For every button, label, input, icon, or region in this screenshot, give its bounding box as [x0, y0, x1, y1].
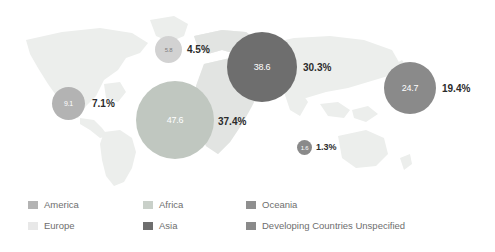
legend-swatch-america-icon	[28, 201, 38, 209]
bubble-percent-europe: 4.5%	[187, 45, 210, 55]
legend-label-europe: Europe	[44, 221, 75, 231]
bubble-value-developing-countries-unspecified: 24.7	[402, 84, 419, 93]
legend-column-2: Africa Asia	[143, 196, 183, 238]
legend-item-oceania[interactable]: Oceania	[246, 196, 405, 213]
legend-label-africa: Africa	[159, 200, 183, 210]
bubble-value-africa: 47.6	[167, 116, 184, 125]
bubble-percent-oceania: 1.3%	[316, 143, 337, 152]
legend-item-developing-countries-unspecified[interactable]: Developing Countries Unspecified	[246, 217, 405, 234]
bubble-percent-asia: 30.3%	[303, 63, 331, 73]
legend-item-america[interactable]: America	[28, 196, 79, 213]
bubble-europe[interactable]: 5.8	[155, 36, 182, 63]
legend-item-europe[interactable]: Europe	[28, 217, 79, 234]
legend-label-developing-countries-unspecified: Developing Countries Unspecified	[262, 221, 405, 231]
bubble-africa[interactable]: 47.6	[136, 81, 214, 159]
legend-item-asia[interactable]: Asia	[143, 217, 183, 234]
legend-column-3: Oceania Developing Countries Unspecified	[246, 196, 405, 238]
legend-swatch-europe-icon	[28, 222, 38, 230]
bubble-percent-developing-countries-unspecified: 19.4%	[442, 84, 470, 94]
bubble-developing-countries-unspecified[interactable]: 24.7	[384, 62, 436, 114]
bubble-percent-america: 7.1%	[92, 99, 115, 109]
legend: America Europe Africa Asia Oceania	[0, 196, 495, 252]
legend-item-africa[interactable]: Africa	[143, 196, 183, 213]
legend-swatch-developing-countries-unspecified-icon	[246, 222, 256, 230]
legend-swatch-asia-icon	[143, 222, 153, 230]
bubble-map-chart: 9.1 7.1% 5.8 4.5% 47.6 37.4% 38.6 30.3% …	[0, 0, 495, 252]
legend-swatch-africa-icon	[143, 201, 153, 209]
map-plot-area: 9.1 7.1% 5.8 4.5% 47.6 37.4% 38.6 30.3% …	[0, 0, 495, 190]
bubble-value-oceania: 1.6	[301, 145, 309, 151]
bubble-percent-africa: 37.4%	[218, 117, 246, 127]
legend-label-oceania: Oceania	[262, 200, 297, 210]
legend-column-1: America Europe	[28, 196, 79, 238]
bubble-value-europe: 5.8	[165, 47, 173, 53]
bubble-value-asia: 38.6	[254, 63, 271, 72]
bubble-asia[interactable]: 38.6	[227, 32, 297, 102]
legend-label-america: America	[44, 200, 79, 210]
bubble-oceania[interactable]: 1.6	[297, 140, 312, 155]
legend-label-asia: Asia	[159, 221, 177, 231]
bubble-america[interactable]: 9.1	[52, 87, 85, 120]
legend-swatch-oceania-icon	[246, 201, 256, 209]
bubble-value-america: 9.1	[64, 100, 73, 107]
